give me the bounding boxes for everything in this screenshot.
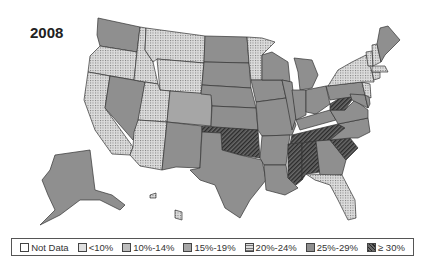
state-nd [204, 36, 249, 63]
legend-item-c25_29: 25%-29% [306, 242, 358, 253]
legend-label: <10% [89, 242, 114, 253]
state-hi-islands [150, 193, 156, 198]
legend-swatch [20, 243, 29, 252]
legend-label: ≥ 30% [378, 242, 405, 253]
state-az [130, 120, 167, 170]
legend-item-ge30: ≥ 30% [367, 242, 405, 253]
state-hi [175, 210, 182, 220]
legend-swatch [367, 243, 376, 252]
legend-item-nodata: Not Data [20, 242, 69, 253]
state-ma [372, 66, 388, 72]
legend-swatch [78, 243, 87, 252]
map-legend: Not Data<10%10%-14%15%-19%20%-24%25%-29%… [11, 238, 414, 256]
legend-label: 10%-14% [133, 242, 174, 253]
legend-label: 20%-24% [256, 242, 297, 253]
state-wy [157, 59, 204, 94]
legend-swatch [122, 243, 131, 252]
legend-label: 25%-29% [317, 242, 358, 253]
state-me [377, 26, 400, 62]
state-oh [306, 86, 330, 114]
state-sd [202, 62, 251, 88]
us-choropleth-map [0, 0, 423, 235]
state-wi [262, 52, 290, 82]
state-ar [260, 135, 290, 165]
state-mt [145, 28, 205, 63]
legend-item-c10_14: 10%-14% [122, 242, 174, 253]
state-nm [162, 122, 202, 170]
legend-label: Not Data [31, 242, 69, 253]
state-ms [288, 143, 302, 185]
legend-swatch [306, 243, 315, 252]
state-ak [40, 150, 125, 225]
legend-item-lt10: <10% [78, 242, 114, 253]
legend-swatch [245, 243, 254, 252]
legend-swatch [183, 243, 192, 252]
legend-label: 15%-19% [194, 242, 235, 253]
state-co [167, 91, 212, 126]
legend-item-c15_19: 15%-19% [183, 242, 235, 253]
state-ks [211, 106, 258, 130]
legend-item-c20_24: 20%-24% [245, 242, 297, 253]
state-fl [306, 174, 356, 220]
state-mi [294, 58, 318, 90]
